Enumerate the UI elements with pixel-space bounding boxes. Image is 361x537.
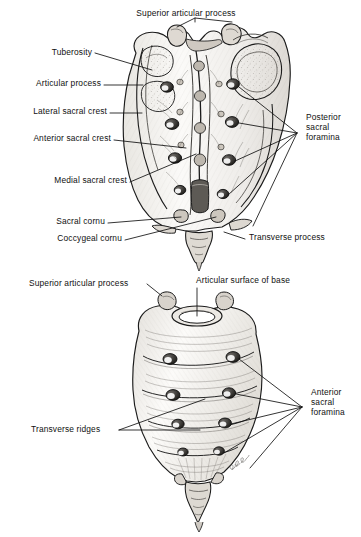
label-line-1: Anterior	[311, 387, 361, 397]
label-line-2: sacral	[311, 397, 361, 407]
label-line-2: sacral	[306, 122, 360, 132]
label-sacral-cornu: Sacral cornu	[56, 217, 105, 227]
label-coccygeal-cornu: Coccygeal cornu	[57, 234, 122, 244]
label-posterior-sacral-foramina: Posterior sacral foramina	[306, 112, 360, 142]
anatomical-plate: Superior articular process Tuberosity Ar…	[0, 0, 361, 537]
label-line-3: foramina	[311, 407, 361, 417]
label-line-1: Posterior	[306, 112, 360, 122]
label-anterior-sacral-foramina: Anterior sacral foramina	[311, 387, 361, 417]
label-anterior-sacral-crest: Anterior sacral crest	[33, 134, 111, 144]
label-line-3: foramina	[306, 132, 360, 142]
label-transverse-ridges: Transverse ridges	[31, 425, 100, 435]
label-superior-articular-process: Superior articular process	[136, 9, 235, 19]
label-medial-sacral-crest: Medial sacral crest	[54, 176, 127, 186]
label-transverse-process: Transverse process	[249, 233, 325, 243]
label-superior-articular-process-2: Superior articular process	[29, 279, 128, 289]
label-articular-process: Articular process	[36, 79, 101, 89]
label-lateral-sacral-crest: Lateral sacral crest	[33, 107, 107, 117]
figure-anterior-sacrum	[119, 284, 302, 532]
label-tuberosity: Tuberosity	[52, 48, 92, 58]
label-articular-surface-of-base: Articular surface of base	[196, 276, 290, 286]
